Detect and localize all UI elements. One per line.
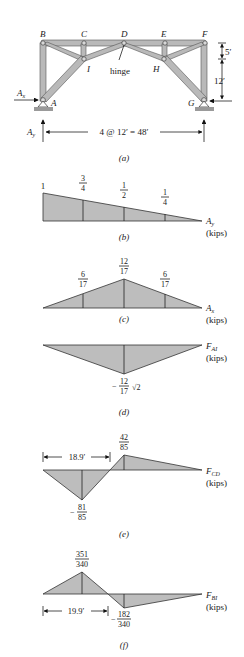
- ay-value-0: 1: [41, 181, 46, 191]
- label-H: H: [152, 64, 160, 74]
- influence-line-fai: − 12 17 √2 FAI (kips) (d): [43, 341, 227, 417]
- fai-value-den: 17: [120, 387, 128, 396]
- ay-axis-label: Ay: [205, 216, 215, 227]
- ay-units: (kips): [206, 228, 227, 238]
- ay-value-2-num: 1: [122, 181, 126, 190]
- fbi-top-den: 340: [76, 560, 88, 569]
- fcd-negative-area: [43, 470, 110, 500]
- dim-12ft-label: 12′: [214, 76, 225, 86]
- reaction-ax-label: Ax: [16, 88, 26, 99]
- fcd-top-num: 42: [120, 433, 128, 442]
- caption-f: (f): [120, 640, 129, 650]
- fbi-positive-area: [43, 572, 108, 594]
- fbi-axis-label: FBI: [205, 590, 218, 601]
- label-A: A: [50, 98, 57, 108]
- fai-units: (kips): [206, 353, 227, 363]
- ax-units: (kips): [206, 315, 227, 325]
- member-BA: [40, 43, 46, 101]
- member-HG: [162, 56, 207, 102]
- ay-value-2-den: 2: [122, 191, 126, 200]
- label-I: I: [86, 64, 91, 74]
- hinge-label: hinge: [110, 66, 130, 76]
- fai-value-num: 12: [120, 377, 128, 386]
- label-C: C: [81, 29, 88, 39]
- fcd-bottom-num: 81: [78, 503, 86, 512]
- fai-root: √2: [132, 383, 140, 392]
- truss-diagram: B C D E F I H A G hinge 5′ 12′ Ax Ay 4 @…: [14, 29, 232, 163]
- ay-value-3-num: 1: [163, 188, 167, 197]
- fbi-bottom-sign: −: [111, 615, 116, 624]
- influence-line-fbi: 19.9′ 351 340 − 182 340 FBI (kips) (f): [43, 550, 227, 650]
- caption-e: (e): [119, 529, 129, 539]
- caption-a: (a): [119, 153, 130, 163]
- fcd-top-den: 85: [120, 443, 128, 452]
- fbi-units: (kips): [206, 602, 227, 612]
- ax-value-2-den: 17: [120, 267, 128, 276]
- fai-area: [43, 345, 202, 374]
- label-G: G: [188, 98, 195, 108]
- ax-value-3-num: 6: [163, 270, 167, 279]
- caption-b: (b): [119, 232, 130, 242]
- fai-axis-label: FAI: [205, 341, 218, 352]
- ground-G: [195, 107, 214, 111]
- member-AI: [41, 56, 86, 102]
- label-D: D: [120, 29, 128, 39]
- label-B: B: [40, 29, 46, 39]
- joint-C: [82, 41, 86, 45]
- caption-d: (d): [119, 407, 130, 417]
- joint-I: [82, 57, 86, 61]
- ay-value-3-den: 4: [163, 198, 167, 207]
- reaction-ay-label: Ay: [26, 127, 36, 138]
- ax-axis-label: Ax: [205, 303, 215, 314]
- label-F: F: [201, 29, 208, 39]
- fbi-top-num: 351: [76, 550, 88, 559]
- joint-E: [163, 41, 167, 45]
- fbi-bottom-num: 182: [118, 610, 130, 619]
- fcd-bottom-den: 85: [78, 513, 86, 522]
- fcd-axis-label: FCD: [205, 466, 221, 477]
- ax-value-2-num: 12: [120, 257, 128, 266]
- influence-line-ax: 6 17 12 17 6 17 Ax (kips) (c): [43, 257, 227, 325]
- ax-area: [43, 279, 202, 308]
- fbi-bottom-den: 340: [118, 620, 130, 629]
- joint-B: [41, 41, 45, 45]
- fbi-dim-label: 19.9′: [68, 606, 85, 616]
- ax-value-1-num: 6: [81, 270, 85, 279]
- span-label: 4 @ 12′ = 48′: [100, 127, 149, 137]
- influence-lines-figure: B C D E F I H A G hinge 5′ 12′ Ax Ay 4 @…: [0, 0, 244, 657]
- fbi-negative-area: [108, 594, 202, 608]
- label-E: E: [160, 29, 167, 39]
- influence-line-ay: 1 3 4 1 2 1 4 Ay (kips) (b): [41, 174, 227, 242]
- caption-c: (c): [119, 314, 129, 324]
- influence-line-fcd: 18.9′ 42 85 − 81 85 FCD (kips) (e): [43, 433, 227, 539]
- dim-5ft-label: 5′: [225, 47, 232, 57]
- ay-value-1-num: 3: [81, 174, 85, 183]
- ax-value-3-den: 17: [161, 280, 169, 289]
- pin-support-G: [199, 101, 209, 107]
- fai-sign: −: [112, 382, 117, 391]
- ay-value-1-den: 4: [81, 184, 85, 193]
- fcd-dim-label: 18.9′: [69, 452, 86, 462]
- fcd-units: (kips): [206, 478, 227, 488]
- joint-D: [122, 41, 126, 45]
- joint-H: [162, 57, 166, 61]
- ax-value-1-den: 17: [79, 280, 87, 289]
- joint-F: [203, 41, 207, 45]
- fcd-bottom-sign: −: [70, 508, 75, 517]
